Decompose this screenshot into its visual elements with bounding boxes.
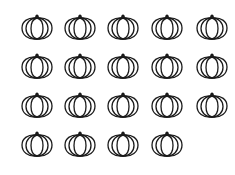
pumpkin-icon [64,13,96,41]
pumpkin-icon [64,130,96,158]
pumpkin-icon [64,91,96,119]
pumpkin-icon [21,130,53,158]
pumpkin-icon [151,91,183,119]
pumpkin-icon [151,130,183,158]
pumpkin-icon [107,130,139,158]
pumpkin-icon [196,91,228,119]
pumpkin-icon [196,13,228,41]
pumpkin-grid [0,0,235,175]
pumpkin-icon [196,52,228,80]
pumpkin-icon [151,13,183,41]
pumpkin-icon [107,13,139,41]
pumpkin-icon [151,52,183,80]
pumpkin-icon [107,52,139,80]
pumpkin-icon [21,91,53,119]
pumpkin-icon [64,52,96,80]
pumpkin-icon [107,91,139,119]
pumpkin-icon [21,13,53,41]
pumpkin-icon [21,52,53,80]
